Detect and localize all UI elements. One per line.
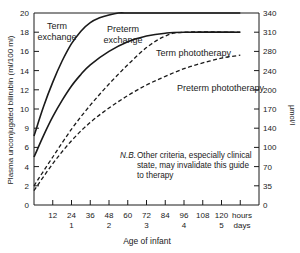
y-tick-right: 140 [263, 124, 277, 133]
x-tick-hours: 12 [48, 211, 57, 220]
y-tick-left: 12 [20, 86, 29, 95]
x-tick-hours: 84 [161, 211, 170, 220]
label-preterm-phototherapy: Preterm phototherapy [177, 83, 265, 93]
label-preterm-exchange-1: Preterm [107, 24, 139, 34]
y-tick-left: 0 [25, 201, 30, 210]
x-tick-hours: 96 [180, 211, 189, 220]
y-tick-right: 340 [263, 9, 277, 18]
x-tick-days: 1 [69, 221, 74, 230]
nb-line-1: Other criteria, especially clinical [137, 151, 252, 160]
y-axis-label-left: Plasma unconjugated bilirubin (ml/100 ml… [6, 35, 15, 184]
label-preterm-exchange-2: exchange [103, 35, 142, 45]
x-tick-days: 2 [107, 221, 112, 230]
x-tick-days: 3 [144, 221, 149, 230]
nb-line-3: to therapy [137, 171, 174, 180]
y-tick-left: 10 [20, 105, 29, 114]
y-tick-left: 18 [20, 28, 29, 37]
y-tick-left: 16 [20, 47, 29, 56]
y-tick-left: 4 [25, 163, 30, 172]
label-term-exchange-1: Term [47, 21, 67, 31]
x-tick-hours: 36 [86, 211, 95, 220]
x-tick-hours: 60 [123, 211, 132, 220]
nb-prefix: N.B. [120, 151, 136, 160]
y-tick-right: 0 [263, 201, 268, 210]
x-tick-days: 4 [182, 221, 187, 230]
y-tick-right: 170 [263, 105, 277, 114]
x-axis-label: Age of infant [123, 236, 171, 246]
x-tick-hours: 108 [196, 211, 210, 220]
y-tick-right: 280 [263, 47, 277, 56]
x-tick-hours: 24 [67, 211, 76, 220]
y-tick-right: 240 [263, 67, 277, 76]
y-tick-left: 9 [25, 124, 30, 133]
y-tick-right: 100 [263, 143, 277, 152]
y-tick-right: 35 [263, 182, 272, 191]
x-tick-hours: 48 [105, 211, 114, 220]
plot-axes: 0246910121416182003570100140170200240280… [20, 9, 277, 230]
label-term-phototherapy: Term phototherapy [156, 48, 232, 58]
y-tick-left: 20 [20, 9, 29, 18]
y-tick-left: 14 [20, 67, 29, 76]
x-unit-days: days [234, 221, 251, 230]
bilirubin-chart: 0246910121416182003570100140170200240280… [0, 0, 300, 253]
x-unit-hours: hours [232, 211, 252, 220]
y-tick-left: 2 [25, 182, 30, 191]
nb-line-2: state, may invalidate this guide [137, 161, 249, 170]
label-term-exchange-2: exchange [37, 32, 76, 42]
y-tick-right: 200 [263, 86, 277, 95]
y-tick-left: 6 [25, 143, 30, 152]
y-tick-right: 310 [263, 28, 277, 37]
x-tick-hours: 120 [215, 211, 229, 220]
x-tick-days: 5 [219, 221, 224, 230]
y-axis-label-right: µmol/l [288, 105, 297, 125]
x-tick-hours: 72 [142, 211, 151, 220]
y-tick-right: 70 [263, 163, 272, 172]
